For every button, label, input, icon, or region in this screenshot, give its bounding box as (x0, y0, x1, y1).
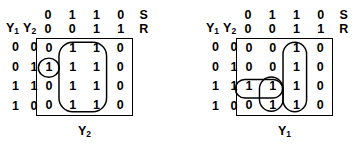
header-r-tag: R (133, 22, 155, 36)
header-r-0-right: 0 (236, 22, 260, 36)
axis-var1-sub: 1 (14, 26, 19, 36)
kmap-grid-y1: 0 0 1 0 0 0 1 0 1 1 1 0 0 1 1 0 (236, 38, 333, 116)
caption-sub-left: 2 (86, 129, 91, 139)
cell-r0c0: 0 (37, 39, 61, 58)
header-r-0: 0 (36, 22, 60, 36)
cell-r3c2-right: 1 (285, 96, 309, 115)
axis-label-y1y2-right: Y1Y2 (206, 21, 236, 36)
cell-r1c2: 1 (85, 58, 109, 77)
cell-r3c0: 0 (37, 96, 61, 115)
kmap-y2: Y1Y2 0 1 1 0 S 0 0 1 1 R 0 0 0 1 1 1 1 0… (0, 0, 180, 145)
caption-sub-right: 1 (286, 129, 291, 139)
header-r-2-right: 1 (284, 22, 308, 36)
cell-r0c3-right: 0 (308, 39, 332, 58)
caption-y1: Y1 (236, 124, 333, 139)
column-header-s-left: 0 1 1 0 S (36, 8, 155, 22)
cell-r2c1-right: 1 (261, 77, 285, 96)
cell-r2c0: 0 (37, 77, 61, 96)
column-header-r-left: 0 0 1 1 R (36, 22, 155, 36)
header-s-tag-right: S (333, 8, 355, 22)
cell-r2c1: 1 (61, 77, 85, 96)
cell-r1c3: 0 (108, 58, 132, 77)
header-r-1-right: 0 (260, 22, 284, 36)
cell-r3c1: 1 (61, 96, 85, 115)
header-r-tag-right: R (333, 22, 355, 36)
cell-r1c1-right: 0 (261, 58, 285, 77)
header-s-1-right: 1 (260, 8, 284, 22)
cell-r0c2-right: 1 (285, 39, 309, 58)
axis-var1-sub-right: 1 (214, 26, 219, 36)
cell-r1c0-right: 0 (237, 58, 261, 77)
cell-r2c3-right: 0 (308, 77, 332, 96)
cell-r1c0: 1 (37, 58, 61, 77)
header-r-2: 1 (84, 22, 108, 36)
cell-r1c3-right: 0 (308, 58, 332, 77)
header-r-3-right: 1 (309, 22, 333, 36)
header-s-tag: S (133, 8, 155, 22)
kmap-grid-y2: 0 1 1 0 1 1 1 0 0 1 1 0 0 1 1 0 (36, 38, 133, 116)
cell-r0c2: 1 (85, 39, 109, 58)
column-header-s-right: 0 1 1 0 S (236, 8, 355, 22)
cell-r1c1: 1 (61, 58, 85, 77)
header-s-0: 0 (36, 8, 60, 22)
caption-y2: Y2 (36, 124, 133, 139)
header-s-2-right: 1 (284, 8, 308, 22)
cell-r0c1: 1 (61, 39, 85, 58)
cell-r2c2: 1 (85, 77, 109, 96)
header-r-1: 0 (60, 22, 84, 36)
axis-label-y1y2-left: Y1Y2 (6, 21, 36, 36)
cell-r0c3: 0 (108, 39, 132, 58)
header-r-3: 1 (109, 22, 133, 36)
cell-r0c1-right: 0 (261, 39, 285, 58)
cell-r2c0-right: 1 (237, 77, 261, 96)
cell-r2c2-right: 1 (285, 77, 309, 96)
cell-r3c2: 1 (85, 96, 109, 115)
header-s-0-right: 0 (236, 8, 260, 22)
header-s-3-right: 0 (309, 8, 333, 22)
cell-r2c3: 0 (108, 77, 132, 96)
cell-r3c1-right: 1 (261, 96, 285, 115)
header-s-3: 0 (109, 8, 133, 22)
cell-r3c3: 0 (108, 96, 132, 115)
header-s-2: 1 (84, 8, 108, 22)
kmap-y1: Y1Y2 0 1 1 0 S 0 0 1 1 R 0 0 0 1 1 1 1 0… (180, 0, 360, 145)
cell-r3c3-right: 0 (308, 96, 332, 115)
cell-r0c0-right: 0 (237, 39, 261, 58)
header-s-1: 1 (60, 8, 84, 22)
column-header-r-right: 0 0 1 1 R (236, 22, 355, 36)
cell-r1c2-right: 1 (285, 58, 309, 77)
cell-r3c0-right: 0 (237, 96, 261, 115)
